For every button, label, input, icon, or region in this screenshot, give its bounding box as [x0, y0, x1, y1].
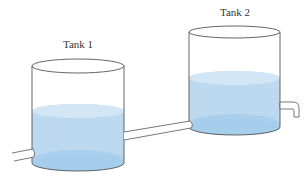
connecting-pipe: [124, 121, 192, 140]
outlet-pipe: [280, 102, 299, 117]
tank-2-water-bottom-shade: [189, 114, 280, 135]
outlet-pipe-body: [280, 102, 299, 117]
tank-1-water-bottom-shade: [32, 150, 124, 171]
tank-1-label: Tank 1: [63, 38, 93, 50]
tank-diagram: Tank 1 Tank 2: [0, 0, 308, 182]
tank-2-top-rim: [189, 26, 280, 38]
tank-2-label: Tank 2: [220, 6, 250, 18]
tank-1-top-rim: [32, 59, 124, 73]
inlet-pipe: [12, 149, 35, 161]
tank-2: Tank 2: [189, 6, 280, 135]
tank-2-water-surface: [189, 71, 280, 85]
tank-1-water-surface: [32, 104, 124, 118]
tank-1: Tank 1: [32, 38, 124, 171]
